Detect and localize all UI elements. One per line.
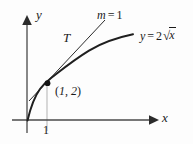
curve-equation-equals-sign: = [145,29,156,43]
x-axis-arrowhead [149,115,159,125]
y-axis-label: y [36,8,42,21]
radical-argument: x [169,27,175,42]
point-close-paren: ) [77,84,81,98]
curve-equation-label: y=2√x [140,29,176,42]
slope-value: 1 [116,8,122,22]
slope-variable: m [97,8,106,22]
slope-equals-sign: = [106,8,117,22]
tangent-line-label: T [63,31,70,44]
x-axis-label: x [162,111,168,124]
math-figure-tangent-to-sqrt-curve: y x T m=1 y=2√x (1, 2) 1 [0,0,193,144]
x-axis-tick-label-1: 1 [43,124,49,136]
point-marker-1-2 [45,80,51,86]
tangent-slope-annotation: m=1 [97,9,122,21]
curve-y-equals-2-sqrt-x [28,34,134,120]
y-axis-arrowhead [22,15,32,25]
point-coordinate-label: (1, 2) [55,85,81,97]
radical-group: √x [162,29,175,42]
